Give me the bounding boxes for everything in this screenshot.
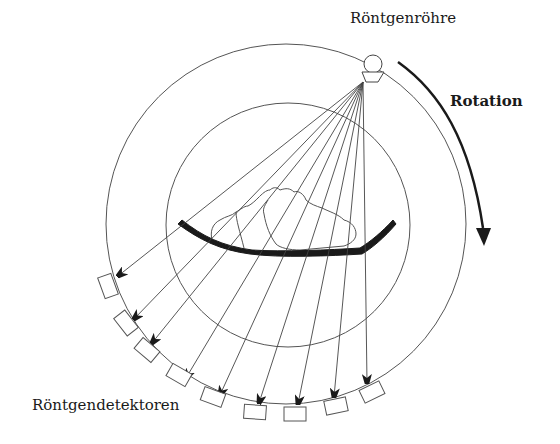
patient-table — [178, 220, 396, 256]
detector — [284, 407, 306, 421]
detector — [114, 310, 139, 336]
xray-beam — [363, 82, 367, 383]
xray-tube — [362, 55, 384, 82]
xray-beam — [186, 82, 363, 378]
xray-beam — [118, 82, 363, 276]
ct-scanner-diagram — [0, 0, 560, 444]
xray-tube-head — [364, 55, 382, 73]
gantry-outer-ring — [106, 44, 466, 404]
rotation-arrow — [398, 62, 491, 246]
gantry-inner-ring — [166, 103, 410, 347]
detectors-label: Röntgendetektoren — [32, 396, 179, 414]
detector — [134, 338, 160, 363]
detector — [98, 273, 119, 298]
patient-outline — [211, 188, 356, 250]
xray-beam — [298, 82, 363, 404]
rotation-arrowhead-icon — [476, 228, 491, 246]
xray-tube-label: Röntgenröhre — [350, 9, 456, 27]
rotation-label: Rotation — [450, 92, 523, 110]
xray-tube-housing — [362, 72, 384, 82]
detector — [359, 381, 385, 403]
xray-beam — [334, 82, 363, 397]
detector — [166, 363, 192, 386]
detector — [244, 404, 267, 420]
